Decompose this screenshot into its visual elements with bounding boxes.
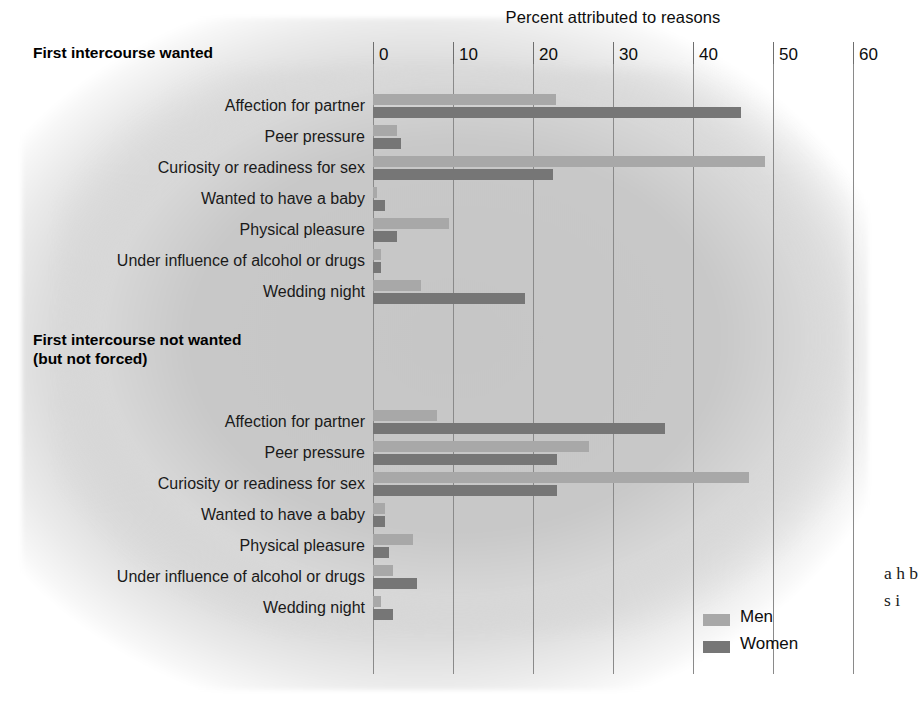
bar-men <box>373 125 397 136</box>
category-label: Affection for partner <box>5 97 365 115</box>
x-tick-label-20: 20 <box>539 45 558 65</box>
bar-men <box>373 280 421 291</box>
category-label: Physical pleasure <box>5 221 365 239</box>
gridline-top-40 <box>693 42 694 64</box>
bar-women <box>373 516 385 527</box>
bar-men <box>373 596 381 607</box>
category-label: Under influence of alcohol or drugs <box>5 252 365 270</box>
section-title-second: First intercourse not wanted (but not fo… <box>33 330 241 368</box>
bar-women <box>373 262 381 273</box>
x-tick-label-0: 0 <box>379 45 388 65</box>
bar-women <box>373 200 385 211</box>
bar-women <box>373 107 741 118</box>
bar-men <box>373 410 437 421</box>
section-title-first: First intercourse wanted <box>33 43 213 62</box>
legend-label-women: Women <box>740 634 798 654</box>
category-label: Under influence of alcohol or drugs <box>5 568 365 586</box>
gridline-50 <box>773 64 774 674</box>
bar-women <box>373 547 389 558</box>
category-label: Peer pressure <box>5 128 365 146</box>
x-tick-label-40: 40 <box>699 45 718 65</box>
category-label: Curiosity or readiness for sex <box>5 159 365 177</box>
bar-men <box>373 441 589 452</box>
category-label: Physical pleasure <box>5 537 365 555</box>
bar-women <box>373 138 401 149</box>
bar-men <box>373 156 765 167</box>
bar-men <box>373 94 556 105</box>
bar-men <box>373 565 393 576</box>
bar-men <box>373 218 449 229</box>
gridline-top-30 <box>613 42 614 64</box>
gridline-top-20 <box>533 42 534 64</box>
gridline-60 <box>853 64 854 674</box>
category-label: Wedding night <box>5 283 365 301</box>
bar-women <box>373 485 557 496</box>
page-margin-text: a h b s i <box>884 560 919 720</box>
x-tick-label-50: 50 <box>779 45 798 65</box>
bar-women <box>373 609 393 620</box>
x-tick-label-60: 60 <box>859 45 878 65</box>
bar-men <box>373 472 749 483</box>
bar-women <box>373 423 665 434</box>
bar-women <box>373 293 525 304</box>
bar-men <box>373 187 377 198</box>
x-tick-label-30: 30 <box>619 45 638 65</box>
category-label: Wanted to have a baby <box>5 506 365 524</box>
bar-women <box>373 231 397 242</box>
category-label: Peer pressure <box>5 444 365 462</box>
legend-swatch-men <box>703 614 730 626</box>
category-label: Wanted to have a baby <box>5 190 365 208</box>
category-label: Affection for partner <box>5 413 365 431</box>
bar-women <box>373 578 417 589</box>
gridline-top-60 <box>853 42 854 64</box>
chart-figure: Percent attributed to reasons 0102030405… <box>0 0 919 724</box>
gridline-top-0 <box>373 42 374 64</box>
category-label: Wedding night <box>5 599 365 617</box>
bar-men <box>373 503 385 514</box>
gridline-top-10 <box>453 42 454 64</box>
axis-title: Percent attributed to reasons <box>373 8 853 27</box>
gridline-top-50 <box>773 42 774 64</box>
bar-women <box>373 454 557 465</box>
legend-label-men: Men <box>740 607 773 627</box>
x-tick-label-10: 10 <box>459 45 478 65</box>
bar-women <box>373 169 553 180</box>
bar-men <box>373 534 413 545</box>
category-label: Curiosity or readiness for sex <box>5 475 365 493</box>
bar-men <box>373 249 381 260</box>
legend-swatch-women <box>703 641 730 653</box>
